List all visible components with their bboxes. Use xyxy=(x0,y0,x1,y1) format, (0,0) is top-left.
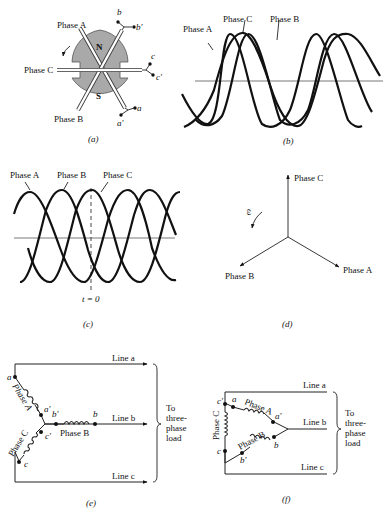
wave-phase-a xyxy=(182,34,362,127)
figure-e-wye: a a' b b' c c' Phase A Phase B Phase C L… xyxy=(6,353,187,508)
figure-c-waveforms: Phase A Phase B Phase C t = 0 (c) xyxy=(10,170,180,329)
f-line-c-label: Line c xyxy=(301,462,324,472)
line-a-wire xyxy=(15,364,147,377)
f-label-phase-b: Phase B xyxy=(236,429,267,452)
d-label-phase-a: Phase A xyxy=(343,265,373,275)
f-line-a-label: Line a xyxy=(303,380,326,390)
d-label-phase-b: Phase B xyxy=(225,271,254,281)
label-phase-c: Phase C xyxy=(24,65,53,75)
f-terminal-b-prime: b' xyxy=(240,455,248,465)
c-label-phase-b: Phase B xyxy=(57,170,86,180)
e-label-phase-c: Phase C xyxy=(6,428,30,458)
e-load-line-1: To xyxy=(166,403,176,413)
caption-f: (f) xyxy=(282,494,291,504)
terminal-c-prime: c' xyxy=(156,72,163,82)
phasor-a xyxy=(288,237,339,267)
f-terminal-c: c xyxy=(217,446,221,456)
f-terminal-a: a xyxy=(232,394,237,404)
e-load-line-4: load xyxy=(166,433,182,443)
f-terminal-b: b xyxy=(274,440,279,450)
c-label-phase-c: Phase C xyxy=(103,170,132,180)
e-line-c-label: Line c xyxy=(112,471,135,481)
e-label-phase-b: Phase B xyxy=(60,428,89,438)
f-load-line-3: phase xyxy=(345,428,366,438)
f-terminal-c-prime: c' xyxy=(217,396,224,406)
terminal-a: a xyxy=(137,103,142,113)
rotation-arrow-icon xyxy=(63,46,70,56)
e-load-brace xyxy=(153,364,161,482)
b-label-phase-b: Phase B xyxy=(270,14,299,24)
e-load-line-2: three- xyxy=(166,413,187,423)
t0-label: t = 0 xyxy=(82,294,100,304)
e-terminal-b-prime: b' xyxy=(52,409,60,419)
terminal-b: b xyxy=(117,7,122,17)
caption-c: (c) xyxy=(83,319,93,329)
label-phase-b: Phase B xyxy=(54,114,83,124)
caption-b: (b) xyxy=(283,136,294,146)
wave-phase-b xyxy=(184,33,380,127)
f-coil-phase-c xyxy=(225,412,228,436)
caption-a: (a) xyxy=(88,134,99,144)
b-label-phase-c: Phase C xyxy=(223,14,252,24)
figure-d-phasors: ω Phase C Phase A Phase B (d) xyxy=(225,173,373,329)
leader-a xyxy=(208,43,213,50)
caption-d: (d) xyxy=(282,319,293,329)
e-load-line-3: phase xyxy=(166,423,187,433)
figure-a-generator: N S b b' c c' a a' Phase A Phase C Phase… xyxy=(24,7,163,144)
terminal-c: c xyxy=(151,51,155,61)
caption-e: (e) xyxy=(86,498,96,508)
e-terminal-a-prime: a' xyxy=(44,404,52,414)
f-terminal-a-prime: a' xyxy=(275,411,283,421)
b-label-phase-a: Phase A xyxy=(183,24,213,34)
e-terminal-c: c xyxy=(24,459,28,469)
c-leader-c xyxy=(101,182,108,192)
f-load-line-2: three- xyxy=(345,418,366,428)
f-label-phase-c: Phase C xyxy=(211,411,221,440)
e-line-b-label: Line b xyxy=(112,413,136,423)
f-line-a-wire xyxy=(225,392,327,403)
rotor-south: S xyxy=(96,91,101,101)
f-load-line-1: To xyxy=(345,408,355,418)
figure-b-waveforms: Phase A Phase C Phase B (b) xyxy=(182,14,383,146)
c-leader-b xyxy=(64,182,68,189)
e-terminal-b: b xyxy=(93,409,98,419)
c-leader-a xyxy=(25,182,30,190)
three-phase-figure: N S b b' c c' a a' Phase A Phase C Phase… xyxy=(0,0,390,516)
e-line-a-label: Line a xyxy=(112,353,135,363)
f-line-b-label: Line b xyxy=(303,417,327,427)
c-label-phase-a: Phase A xyxy=(10,170,40,180)
wave-c-phase-b xyxy=(20,190,176,282)
terminal-b-prime: b' xyxy=(136,22,144,32)
phasor-b xyxy=(240,237,288,266)
terminal-a-prime: a' xyxy=(117,118,125,128)
rotor-north: N xyxy=(96,42,103,52)
f-load-brace xyxy=(333,392,341,474)
d-label-phase-c: Phase C xyxy=(294,173,323,183)
e-terminal-a: a xyxy=(7,372,12,382)
label-phase-a: Phase A xyxy=(57,20,87,30)
f-load-line-4: load xyxy=(345,438,361,448)
e-terminal-c-prime: c' xyxy=(45,431,52,441)
figure-f-delta: a a' b b' c c' Phase A Phase B Phase C L… xyxy=(211,380,366,504)
omega-symbol: ω xyxy=(245,209,255,215)
